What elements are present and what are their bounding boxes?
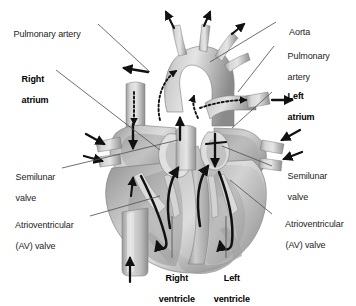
label-av-valve-right-line2: (AV) valve — [286, 240, 326, 250]
label-left-ventricle: Left ventricle — [197, 262, 257, 306]
aorta-branch-1 — [172, 25, 187, 56]
label-semilunar-valve-left-line2: valve — [16, 193, 37, 203]
label-right-atrium: Right atrium — [12, 63, 49, 116]
label-pulmonary-artery-left: Pulmonary artery — [4, 18, 81, 50]
label-aorta-text: Aorta — [289, 27, 310, 37]
label-right-ventricle: Right ventricle — [141, 262, 203, 306]
label-semilunar-valve-left-line1: Semilunar — [16, 172, 56, 182]
label-left-ventricle-line1: Left — [224, 273, 240, 283]
label-av-valve-right: Atrioventricular (AV) valve — [276, 208, 344, 261]
outflow-arrow-pulmonary-left — [124, 68, 148, 72]
label-right-atrium-line1: Right — [22, 74, 45, 84]
label-right-atrium-line2: atrium — [22, 95, 49, 105]
inflow-arrow-left-upper — [86, 134, 104, 144]
aorta-branch-4 — [224, 53, 250, 72]
label-semilunar-valve-right-line2: valve — [288, 192, 309, 202]
outflow-arrow-1 — [166, 12, 174, 28]
label-av-valve-left-line1: Atrioventricular — [15, 220, 73, 230]
label-semilunar-valve-left: Semilunar valve — [6, 161, 55, 214]
label-pulmonary-artery-right-line1: Pulmonary — [288, 51, 330, 61]
label-av-valve-left: Atrioventricular (AV) valve — [6, 209, 74, 262]
label-pulmonary-artery-left-text: Pulmonary artery — [14, 29, 81, 39]
label-semilunar-valve-right-line1: Semilunar — [288, 171, 328, 181]
pulmonary-artery-right-branch — [246, 92, 270, 108]
label-av-valve-left-line2: (AV) valve — [16, 241, 56, 251]
heart-anatomy-group — [96, 24, 284, 276]
label-semilunar-valve-right: Semilunar valve — [278, 160, 327, 213]
label-right-ventricle-line2: ventricle — [159, 294, 195, 304]
dotted-arrow-pulmonary-up — [193, 96, 198, 118]
aortic-arch — [165, 46, 235, 126]
label-left-ventricle-line2: ventricle — [214, 294, 250, 304]
leader-line-pulmonary-artery-right — [238, 46, 274, 92]
outflow-arrow-3 — [232, 24, 244, 34]
label-av-valve-right-line1: Atrioventricular — [285, 219, 343, 229]
outflow-arrow-2 — [204, 12, 210, 26]
inflow-arrow-right-lower — [284, 152, 302, 159]
label-left-atrium: Left atrium — [278, 80, 315, 133]
leader-line-pulmonary-artery-left — [98, 24, 150, 72]
label-right-ventricle-line1: Right — [166, 273, 189, 283]
label-left-atrium-line2: atrium — [288, 112, 315, 122]
label-left-atrium-line1: Left — [288, 91, 304, 101]
